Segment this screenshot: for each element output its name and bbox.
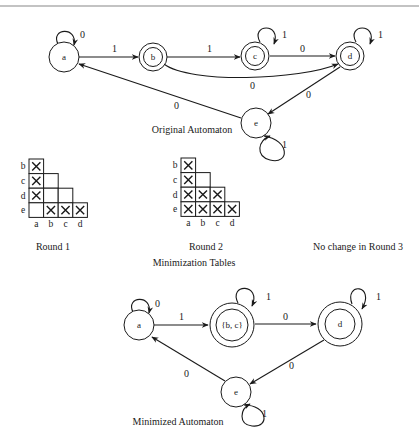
min-edge-label-e-e: 1 xyxy=(262,408,267,419)
min-edge-label-d-d: 1 xyxy=(376,291,381,302)
min-edge-label-bc-d: 0 xyxy=(283,311,288,322)
edge-e-e xyxy=(260,136,284,161)
state-c: c xyxy=(241,42,269,70)
row-label-b: b xyxy=(173,160,178,170)
edge-d-e xyxy=(268,67,340,114)
min-state-e: e xyxy=(221,377,251,407)
edge-label-c-c: 1 xyxy=(282,29,287,40)
state-label-a: a xyxy=(62,52,66,62)
cell-c-b xyxy=(44,174,59,189)
state-label-d: d xyxy=(348,51,353,61)
edge-c-c xyxy=(258,28,275,44)
state-b: b xyxy=(139,43,167,71)
edge-label-d-d: 1 xyxy=(378,29,383,40)
min-state-label-d: d xyxy=(338,319,343,329)
edge-e-a xyxy=(79,64,241,118)
original-caption: Original Automaton xyxy=(152,124,232,135)
edge-d-d xyxy=(354,28,371,44)
col-label-b: b xyxy=(201,218,206,228)
min-edge-label-d-e: 0 xyxy=(289,360,294,371)
state-a: a xyxy=(49,42,79,72)
cell-d-c xyxy=(58,188,73,203)
edge-label-b-c: 1 xyxy=(207,43,212,54)
col-label-d: d xyxy=(230,218,235,228)
state-label-e: e xyxy=(254,118,258,128)
round2-table: bcdeabcd xyxy=(173,158,240,228)
min-state-label-e: e xyxy=(234,387,238,397)
round1-table: bcdeabcd xyxy=(21,159,88,229)
min-state-d: d xyxy=(318,302,362,346)
edge-label-a-a: 0 xyxy=(80,29,85,40)
row-label-d: d xyxy=(173,190,178,200)
min-state-bc: {b, c} xyxy=(210,303,254,347)
edge-label-d-e: 0 xyxy=(306,89,311,100)
figure: 0 1 1 0 1 0 1 0 1 0 a b c xyxy=(0,0,419,439)
col-label-a: a xyxy=(34,219,39,229)
edge-label-a-b: 1 xyxy=(112,43,117,54)
col-label-d: d xyxy=(78,219,83,229)
row-label-d: d xyxy=(21,191,26,201)
min-edge-bc-bc xyxy=(236,288,254,306)
row-label-b: b xyxy=(21,161,26,171)
min-edge-label-a-a: 0 xyxy=(155,298,160,309)
minimized-caption: Minimized Automaton xyxy=(133,416,224,427)
round1-caption: Round 1 xyxy=(36,241,70,252)
row-label-c: c xyxy=(21,176,25,186)
row-label-e: e xyxy=(173,204,177,214)
cell-d-b xyxy=(44,188,59,203)
cell-e-a xyxy=(29,203,44,218)
min-state-a: a xyxy=(124,310,154,340)
min-edge-label-bc-bc: 1 xyxy=(266,291,271,302)
round2-caption: Round 2 xyxy=(189,241,223,252)
edge-label-c-d: 0 xyxy=(300,43,305,54)
min-state-label-bc: {b, c} xyxy=(221,320,243,330)
original-automaton: 0 1 1 0 1 0 1 0 1 0 a b c xyxy=(49,28,383,161)
edge-label-e-e: 1 xyxy=(282,139,287,150)
edge-label-e-a: 0 xyxy=(174,100,179,111)
state-e: e xyxy=(241,108,271,138)
tables-caption: Minimization Tables xyxy=(153,257,236,268)
col-label-c: c xyxy=(215,218,219,228)
round3-note: No change in Round 3 xyxy=(313,241,403,252)
row-label-e: e xyxy=(21,205,25,215)
cell-c-b xyxy=(196,173,211,188)
min-state-label-a: a xyxy=(137,320,141,330)
col-label-b: b xyxy=(49,219,54,229)
col-label-a: a xyxy=(186,218,191,228)
state-label-b: b xyxy=(151,52,156,62)
min-edge-label-e-a: 0 xyxy=(184,368,189,379)
state-d: d xyxy=(336,42,364,70)
min-edge-e-e xyxy=(242,404,264,426)
row-label-c: c xyxy=(173,175,177,185)
col-label-c: c xyxy=(63,219,67,229)
edge-label-b-d: 0 xyxy=(250,80,255,91)
min-edge-label-a-bc: 1 xyxy=(179,311,184,322)
state-label-c: c xyxy=(253,51,257,61)
minimized-automaton: 0 1 1 0 1 0 1 0 a {b, c} d e xyxy=(124,288,381,427)
min-edge-d-e xyxy=(250,340,324,384)
